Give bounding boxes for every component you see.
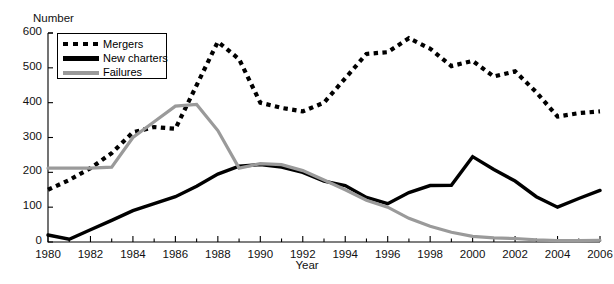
y-tick-label: 400	[8, 95, 42, 107]
x-tick-label: 1990	[237, 248, 283, 260]
x-tick-label: 1984	[110, 248, 156, 260]
x-tick-label: 1988	[195, 248, 241, 260]
legend-item-failures: Failures	[62, 65, 162, 79]
x-tick-label: 2000	[450, 248, 496, 260]
x-tick-label: 2006	[577, 248, 614, 260]
chart-figure: Number Year 0100200300400500600 19801982…	[0, 0, 614, 284]
y-tick-label: 500	[8, 60, 42, 72]
x-tick-label: 1996	[365, 248, 411, 260]
x-tick-label: 1980	[25, 248, 71, 260]
x-tick-label: 2002	[492, 248, 538, 260]
series-line-failures	[48, 104, 600, 240]
x-tick-label: 1994	[322, 248, 368, 260]
series-line-new-charters	[48, 157, 600, 240]
x-tick-label: 2004	[535, 248, 581, 260]
legend-label-mergers: Mergers	[103, 37, 143, 51]
legend-label-failures: Failures	[103, 65, 142, 79]
y-tick-label: 100	[8, 199, 42, 211]
legend: Mergers New charters Failures	[57, 33, 167, 79]
legend-swatch-solid-icon	[62, 51, 100, 65]
y-tick-label: 200	[8, 164, 42, 176]
y-tick-label: 0	[8, 234, 42, 246]
y-tick-label: 600	[8, 25, 42, 37]
x-tick-label: 1992	[280, 248, 326, 260]
legend-item-mergers: Mergers	[62, 37, 162, 51]
legend-swatch-gray-icon	[62, 65, 100, 79]
y-tick-label: 300	[8, 130, 42, 142]
legend-swatch-dotted-icon	[62, 37, 100, 51]
x-tick-label: 1986	[152, 248, 198, 260]
legend-label-new-charters: New charters	[103, 51, 168, 65]
legend-item-new-charters: New charters	[62, 51, 162, 65]
x-tick-label: 1982	[67, 248, 113, 260]
x-tick-label: 1998	[407, 248, 453, 260]
